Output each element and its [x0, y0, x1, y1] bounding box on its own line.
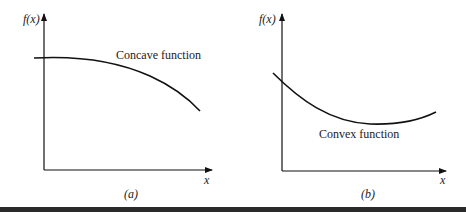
y-axis-label-b: f(x)	[259, 12, 276, 26]
x-axis-label-a: x	[203, 173, 210, 187]
concave-annotation: Concave function	[116, 48, 201, 62]
convex-curve	[273, 73, 436, 124]
panel-caption-a: (a)	[124, 187, 138, 201]
concave-curve	[34, 57, 200, 111]
panel-a: f(x) x Concave function (a)	[23, 12, 212, 201]
x-axis-label-b: x	[439, 173, 446, 187]
panel-b: f(x) x Convex function (b)	[259, 12, 446, 201]
panel-caption-b: (b)	[361, 187, 375, 201]
y-axis-label-a: f(x)	[23, 12, 40, 26]
bottom-border	[0, 207, 466, 212]
convex-annotation: Convex function	[319, 127, 399, 141]
diagram-canvas: f(x) x Concave function (a) f(x) x Conve…	[0, 0, 466, 212]
